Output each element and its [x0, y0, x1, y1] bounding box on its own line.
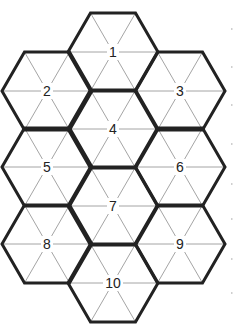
- edge-marks: [231, 28, 233, 294]
- hexagon-grid-diagram: 12345678910: [0, 0, 234, 334]
- hex-number-8: 8: [43, 236, 51, 252]
- hex-number-2: 2: [43, 83, 51, 99]
- hex-number-4: 4: [109, 121, 117, 137]
- hex-number-9: 9: [176, 236, 184, 252]
- hex-number-1: 1: [109, 44, 117, 60]
- hex-number-3: 3: [176, 83, 184, 99]
- hex-number-6: 6: [176, 159, 184, 175]
- hex-number-10: 10: [105, 275, 121, 291]
- hex-number-5: 5: [43, 159, 51, 175]
- hex-number-7: 7: [109, 198, 117, 214]
